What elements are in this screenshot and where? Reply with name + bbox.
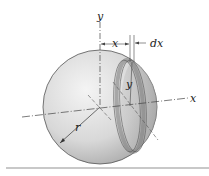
- x-arrow-left: [101, 43, 105, 46]
- y-axis-label: y: [96, 10, 104, 23]
- dx-arrow: [135, 42, 139, 45]
- x-distance-label: x: [112, 37, 119, 50]
- x-axis-label: x: [190, 92, 197, 105]
- sphere-volume-diagram: y x dx y x r: [0, 0, 209, 176]
- dx-label: dx: [150, 37, 164, 50]
- x-arrow-right: [125, 43, 129, 46]
- slice-radius-label: y: [125, 78, 133, 91]
- radius-label: r: [75, 121, 81, 134]
- bottom-rule: [6, 167, 209, 169]
